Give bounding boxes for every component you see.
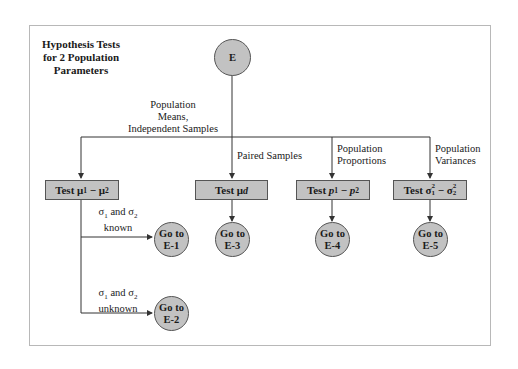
condition-unknown: σ1 and σ2 unknown — [88, 287, 148, 315]
goto-node-e4: Go toE-4 — [315, 222, 350, 257]
branch-label-paired: Paired Samples — [237, 150, 302, 162]
diagram-title: Hypothesis Tests for 2 Population Parame… — [36, 38, 126, 77]
goto-node-e5: Go toE-5 — [413, 222, 448, 257]
goto-node-e1: Go toE-1 — [154, 222, 189, 257]
root-node-e: E — [214, 39, 251, 76]
test-box-paired: Test μd — [195, 180, 268, 200]
branch-label-proportions: PopulationProportions — [337, 143, 386, 167]
branch-label-independent-means: PopulationMeans,Independent Samples — [113, 99, 233, 135]
test-box-mean-difference: Test μ1 − μ2 — [45, 180, 119, 200]
condition-known: σ1 and σ2 known — [88, 206, 148, 234]
branch-label-variances: PopulationVariances — [435, 143, 481, 167]
test-box-proportions: Test p1 − p2 — [296, 180, 370, 200]
test-box-variances: Test σ21 − σ22 — [393, 180, 467, 200]
goto-node-e3: Go toE-3 — [215, 222, 250, 257]
goto-node-e2: Go toE-2 — [154, 296, 189, 331]
